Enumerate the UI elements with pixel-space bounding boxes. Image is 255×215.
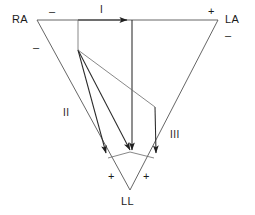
lead-label-ii: II — [63, 108, 70, 118]
vector-construction-lines — [78, 20, 155, 158]
lead-label-iii: III — [170, 130, 180, 140]
electrode-label-la: LA — [225, 14, 239, 25]
polarity-minus-ra-top: – — [49, 6, 55, 17]
projection-line-to-right-node — [78, 50, 155, 107]
polarity-plus-ll-left: + — [108, 171, 114, 182]
electrode-label-ll: LL — [121, 196, 134, 207]
polarity-plus-la-top: + — [208, 6, 214, 17]
electrode-label-ra: RA — [12, 14, 28, 25]
lead-vectors — [78, 20, 156, 153]
triangle-side-ra-ll — [37, 20, 130, 190]
polarity-minus-la-right: – — [225, 30, 231, 41]
lead-iii-vector — [155, 107, 156, 153]
triangle-side-la-ll — [130, 20, 218, 190]
lead-ii-vector — [78, 50, 106, 153]
einthoven-triangle-diagram: RA LA LL I II III – + – – + + — [0, 0, 255, 215]
triangle-outline — [37, 20, 218, 190]
parallelogram-side-right — [130, 152, 154, 158]
diagram-canvas — [0, 0, 255, 215]
lead-label-i: I — [100, 5, 103, 15]
polarity-plus-ll-right: + — [143, 171, 149, 182]
polarity-minus-ra-left: – — [33, 42, 39, 53]
resultant-vector — [78, 50, 130, 150]
